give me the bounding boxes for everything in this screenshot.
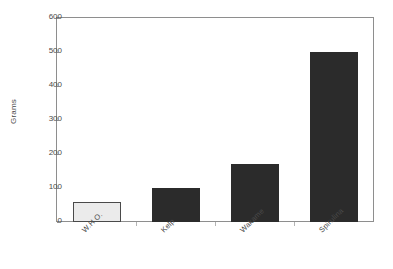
bar-spirulina [310,52,358,222]
bar-w-h-o [73,202,121,222]
bars-layer [57,18,373,222]
y-axis-title-label: Grams [9,99,18,124]
x-axis-tick-mark [136,222,137,226]
bar-kelp [152,188,200,222]
bar-wakame [231,164,279,222]
bar-chart: Grams 0100200300400500600 W.H.O.KelpWaka… [0,0,393,269]
y-axis-title: Grams [6,0,20,222]
y-axis-tick-mark [57,222,61,223]
x-axis-tick-mark [294,222,295,226]
x-axis-tick-mark [215,222,216,226]
